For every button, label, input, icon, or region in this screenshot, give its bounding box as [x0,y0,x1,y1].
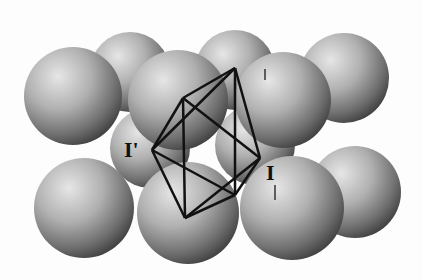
label-i: I [266,160,275,186]
sphere [24,47,122,145]
sphere [235,52,331,148]
sphere [34,158,134,258]
sphere [128,50,228,150]
label-i-prime: I' [124,137,139,163]
sphere [137,162,239,264]
sphere [240,156,344,260]
sphere-packing [0,0,422,280]
crystal-packing-diagram: I' I [0,0,422,280]
